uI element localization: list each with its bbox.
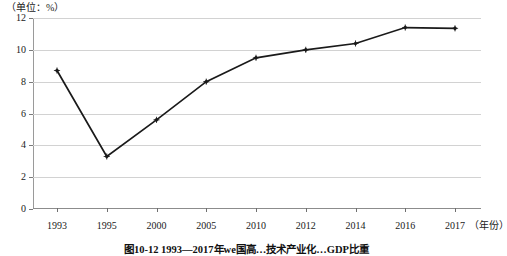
y-tick-mark [29, 209, 33, 210]
y-tick-label: 0 [21, 204, 26, 214]
data-point-marker [253, 55, 259, 61]
data-point-marker [402, 24, 408, 30]
plot-area: 024681012 [33, 18, 481, 209]
y-tick-label: 10 [16, 45, 26, 55]
x-tick-label: 2017 [445, 220, 465, 231]
data-point-marker [303, 47, 309, 53]
y-tick-label: 2 [21, 172, 26, 182]
y-axis-unit-label: （单位：%） [6, 2, 64, 14]
x-axis-unit-label: （年份） [469, 220, 507, 231]
y-tick-label: 8 [21, 77, 26, 87]
x-tick-label: 2016 [395, 220, 415, 231]
y-tick-label: 4 [21, 140, 26, 150]
x-tick-label: 2005 [196, 220, 216, 231]
x-tick-label: 2014 [346, 220, 366, 231]
figure-caption: 图10-12 1993—2017年we国高…技术产业化…GDP比重 [0, 243, 493, 256]
data-point-marker [352, 40, 358, 46]
y-tick-label: 12 [16, 13, 26, 23]
x-tick-label: 2010 [246, 220, 266, 231]
x-tick-label: 1995 [97, 220, 117, 231]
y-tick-label: 6 [21, 109, 26, 119]
x-tick-label: 2012 [296, 220, 316, 231]
x-tick-label: 2000 [147, 220, 167, 231]
data-series [33, 18, 481, 209]
x-tick-label: 1993 [47, 220, 67, 231]
series-line [57, 28, 455, 157]
data-point-marker [452, 25, 458, 31]
